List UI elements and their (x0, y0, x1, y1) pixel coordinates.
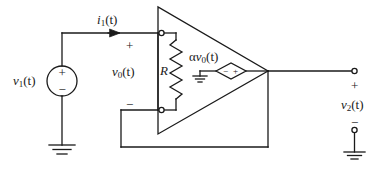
input-current-arg: (t) (105, 12, 117, 27)
resistor-terminal-top-dot (159, 30, 164, 35)
output-voltage-arg: (t) (351, 97, 363, 112)
ground-source-icon (49, 145, 75, 154)
resistor-terminal-bottom-dot (159, 107, 164, 112)
dependent-voltage-source-body (216, 63, 246, 79)
dependent-source-gain: α (189, 49, 196, 64)
input-plus-sign: + (126, 39, 133, 52)
circuit-diagram-figure: v1(t) + − i1(t) + v0(t) − R αv0(t) − + +… (0, 0, 387, 172)
input-current-arrow-icon (108, 29, 120, 37)
control-voltage-arg: (t) (122, 64, 134, 79)
resistor-label: R (160, 64, 168, 77)
source-voltage-arg: (t) (23, 73, 35, 88)
output-voltage-label: v2(t) (341, 98, 364, 113)
control-minus-sign: − (126, 98, 133, 111)
dep-source-plus-sign: + (233, 67, 238, 76)
source-plus-sign: + (59, 66, 66, 79)
output-terminal-top-dot (352, 68, 357, 73)
output-plus-sign: + (351, 79, 358, 92)
resistor-zigzag (170, 40, 182, 99)
source-minus-sign: − (59, 83, 66, 96)
input-current-label: i1(t) (97, 13, 117, 28)
dependent-source-label: αv0(t) (189, 50, 218, 65)
source-voltage-label: v1(t) (13, 74, 36, 89)
dependent-source-arg: (t) (206, 49, 218, 64)
control-voltage-label: v0(t) (112, 65, 135, 80)
dep-source-minus-sign: − (223, 67, 228, 76)
ground-output-icon (344, 152, 365, 159)
output-minus-sign: − (351, 116, 358, 129)
ground-dependent-source-icon (193, 76, 207, 82)
